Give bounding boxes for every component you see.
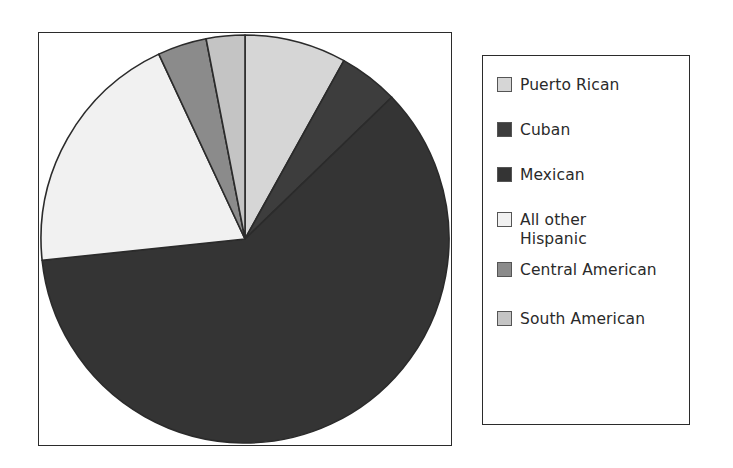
legend-item-south-american[interactable]: South American xyxy=(497,310,679,329)
pie-chart-svg xyxy=(39,33,453,447)
legend-label-cuban: Cuban xyxy=(520,121,570,140)
legend-item-cuban[interactable]: Cuban xyxy=(497,121,679,140)
legend-list: Puerto Rican Cuban Mexican All other His… xyxy=(483,56,689,424)
legend-label-mexican: Mexican xyxy=(520,166,585,185)
pie-chart-panel xyxy=(38,32,452,446)
legend-label-puerto-rican: Puerto Rican xyxy=(520,76,619,95)
legend-swatch-south-american xyxy=(497,311,512,326)
legend-item-mexican[interactable]: Mexican xyxy=(497,166,679,185)
legend-swatch-central-american xyxy=(497,262,512,277)
legend-swatch-mexican xyxy=(497,167,512,182)
legend-label-all-other-hispanic: All other Hispanic xyxy=(520,211,587,249)
legend-swatch-all-other-hispanic xyxy=(497,212,512,227)
legend-item-all-other-hispanic[interactable]: All other Hispanic xyxy=(497,211,679,249)
legend-label-central-american: Central American xyxy=(520,261,657,280)
pie-slice-group xyxy=(41,35,449,443)
legend-swatch-puerto-rican xyxy=(497,77,512,92)
legend-item-central-american[interactable]: Central American xyxy=(497,261,679,280)
legend-panel: Puerto Rican Cuban Mexican All other His… xyxy=(482,55,690,425)
legend-swatch-cuban xyxy=(497,122,512,137)
legend-label-south-american: South American xyxy=(520,310,645,329)
legend-item-puerto-rican[interactable]: Puerto Rican xyxy=(497,76,679,95)
chart-page: Puerto Rican Cuban Mexican All other His… xyxy=(0,0,733,468)
